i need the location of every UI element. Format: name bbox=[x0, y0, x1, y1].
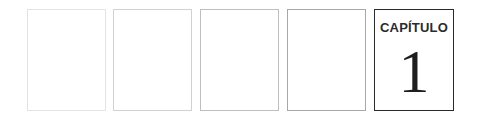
chapter-number: 1 bbox=[375, 38, 453, 104]
chapter-label: CAPÍTULO bbox=[375, 20, 453, 36]
blank-page-1 bbox=[27, 9, 106, 111]
blank-page-4 bbox=[287, 9, 366, 111]
blank-page-3 bbox=[200, 9, 279, 111]
blank-page-2 bbox=[113, 9, 192, 111]
chapter-page: CAPÍTULO 1 bbox=[374, 9, 454, 111]
